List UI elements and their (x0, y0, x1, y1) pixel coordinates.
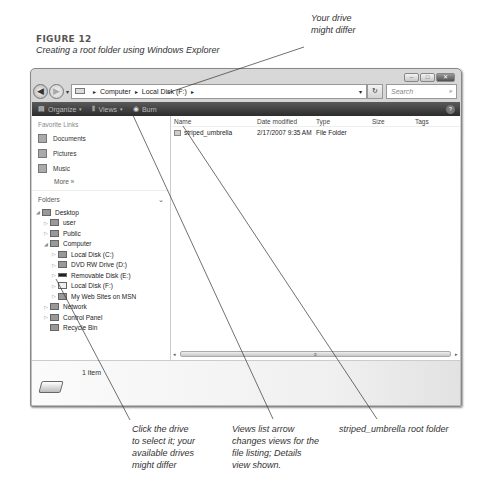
back-button[interactable]: ◀ (33, 84, 48, 99)
tree-item-computer[interactable]: ◢Computer (32, 239, 170, 250)
callout-views: Views list arrow changes views for the f… (232, 423, 319, 471)
folders-header[interactable]: Folders⌄ (32, 190, 170, 207)
column-type[interactable]: Type (316, 118, 372, 125)
refresh-button[interactable]: ↻ (367, 84, 383, 99)
burn-button[interactable]: ◉Burn (133, 105, 157, 113)
recent-pages-dropdown[interactable]: ▾ (66, 88, 69, 95)
tree-item-desktop[interactable]: ◢Desktop (32, 207, 170, 218)
address-bar[interactable]: ▸ Computer ▸ Local Disk (F:) ▸ ▾ (71, 84, 367, 99)
chevron-right-icon[interactable]: ▸ (135, 88, 138, 95)
callout-line: view shown. (232, 459, 319, 471)
burn-icon: ◉ (133, 105, 139, 113)
tree-item-control-panel[interactable]: ▷Control Panel (32, 312, 170, 323)
tree-item-my-web-sites[interactable]: ▷My Web Sites on MSN (32, 291, 170, 302)
desktop-icon (42, 209, 51, 216)
content-area: Favorite Links Documents Pictures Music … (32, 116, 460, 361)
column-headers: Name Date modified Type Size Tags (171, 116, 460, 127)
horizontal-scrollbar[interactable]: ◂ ≡ ▸ (173, 350, 458, 358)
organize-button[interactable]: ▤Organize▾ (38, 105, 82, 113)
callout-line: might differ (311, 24, 356, 36)
music-icon (38, 164, 47, 173)
chevron-right-icon[interactable]: ▸ (191, 88, 194, 95)
callout-line: to select it; your (132, 435, 195, 447)
tree-label: Recycle Bin (63, 324, 97, 331)
organize-label: Organize (48, 106, 76, 113)
help-button[interactable]: ? (446, 105, 455, 114)
minimize-button[interactable]: – (404, 73, 419, 82)
column-size[interactable]: Size (372, 118, 415, 125)
column-date-modified[interactable]: Date modified (257, 118, 316, 125)
organize-icon: ▤ (38, 105, 45, 113)
tree-label: Public (63, 230, 81, 237)
tree-label: Control Panel (63, 314, 102, 321)
tree-item-recycle-bin[interactable]: Recycle Bin (32, 323, 170, 334)
figure-title: FIGURE 12 (36, 34, 92, 44)
file-list: Name Date modified Type Size Tags stripe… (171, 116, 460, 361)
item-count: 1 item (82, 369, 101, 376)
file-row[interactable]: striped_umbrella 2/17/2007 9:35 AM File … (171, 127, 460, 138)
public-folder-icon (50, 230, 59, 237)
column-name[interactable]: Name (171, 118, 257, 125)
callout-line: available drives (132, 447, 195, 459)
tree-item-local-disk-f[interactable]: ▷Local Disk (F:) (32, 281, 170, 292)
tree-item-network[interactable]: ▷Network (32, 302, 170, 313)
dvd-drive-icon (58, 261, 67, 268)
close-button[interactable]: ✕ (436, 73, 455, 82)
address-dropdown-icon[interactable]: ▾ (359, 88, 362, 95)
burn-label: Burn (142, 106, 157, 113)
favorite-documents[interactable]: Documents (32, 131, 170, 146)
control-panel-icon (50, 314, 59, 321)
tree-label: user (63, 219, 76, 226)
callout-click-drive: Click the drive to select it; your avail… (132, 423, 195, 471)
navigation-bar: ◀ ▶ ▾ ▸ Computer ▸ Local Disk (F:) ▸ ▾ ↻… (33, 82, 457, 100)
breadcrumb-local-disk-f[interactable]: Local Disk (F:) (142, 88, 187, 95)
navigation-pane: Favorite Links Documents Pictures Music … (32, 116, 171, 361)
column-tags[interactable]: Tags (415, 118, 455, 125)
tree-item-user[interactable]: ▷user (32, 218, 170, 229)
search-input[interactable]: Search ⌕ (386, 84, 457, 99)
forward-button[interactable]: ▶ (49, 84, 64, 99)
callout-line: file listing; Details (232, 447, 319, 459)
search-placeholder: Search (391, 88, 413, 95)
scroll-right-icon[interactable]: ▸ (455, 351, 458, 357)
callout-folder: striped_umbrella root folder (339, 423, 449, 435)
favorite-label: Documents (53, 135, 86, 142)
recycle-bin-icon (50, 324, 59, 331)
maximize-button[interactable]: □ (420, 73, 435, 82)
favorite-links-header: Favorite Links (32, 119, 170, 131)
favorite-pictures[interactable]: Pictures (32, 146, 170, 161)
removable-disk-icon (58, 273, 67, 277)
more-link[interactable]: More » (32, 176, 170, 187)
folder-icon (174, 130, 181, 136)
breadcrumb-computer[interactable]: Computer (100, 88, 131, 95)
drive-icon (38, 381, 63, 393)
tree-label: Desktop (55, 209, 79, 216)
tree-label: Local Disk (C:) (71, 251, 114, 258)
scroll-thumb[interactable]: ≡ (180, 351, 451, 357)
favorite-music[interactable]: Music (32, 161, 170, 176)
views-icon: ⦀ (92, 105, 95, 113)
window-controls: – □ ✕ (404, 73, 455, 82)
tree-item-dvd-drive-d[interactable]: ▷DVD RW Drive (D:) (32, 260, 170, 271)
tree-item-local-disk-c[interactable]: ▷Local Disk (C:) (32, 249, 170, 260)
tree-label: DVD RW Drive (D:) (71, 261, 127, 268)
hard-disk-icon (58, 251, 67, 258)
web-folder-icon (58, 293, 67, 300)
user-folder-icon (50, 219, 59, 226)
pictures-icon (38, 149, 47, 158)
details-pane: 1 item (32, 360, 460, 405)
chevron-down-icon[interactable]: ⌄ (158, 196, 164, 204)
views-button[interactable]: ⦀Views▾ (92, 105, 123, 113)
computer-icon (50, 240, 59, 247)
folders-label: Folders (38, 196, 60, 204)
views-label: Views (98, 106, 117, 113)
tree-label: My Web Sites on MSN (71, 293, 136, 300)
search-icon[interactable]: ⌕ (449, 87, 453, 95)
figure-subtitle: Creating a root folder using Windows Exp… (36, 45, 220, 55)
tree-item-removable-disk-e[interactable]: ▷Removable Disk (E:) (32, 270, 170, 281)
tree-item-public[interactable]: ▷Public (32, 228, 170, 239)
views-dropdown-arrow-icon[interactable]: ▾ (120, 106, 123, 112)
chevron-right-icon[interactable]: ▸ (93, 88, 96, 95)
scroll-left-icon[interactable]: ◂ (173, 351, 176, 357)
drive-icon (75, 88, 85, 94)
